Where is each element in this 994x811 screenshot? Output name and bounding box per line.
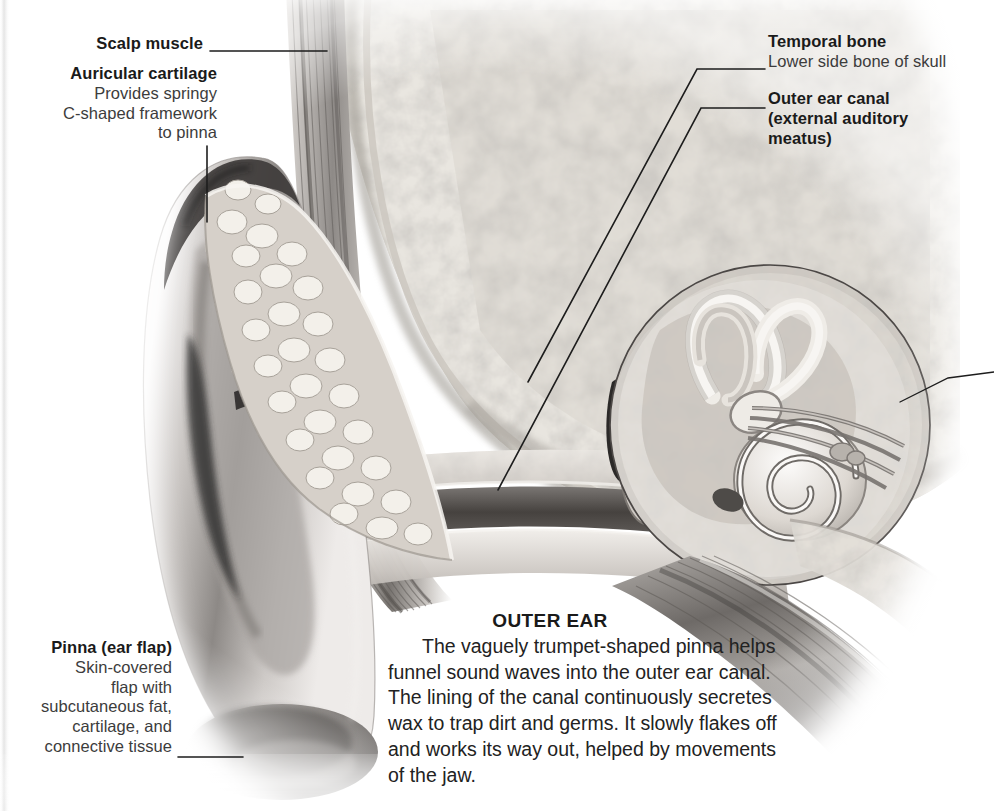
- temporal-bone-subtitle: Lower side bone of skull: [768, 52, 994, 72]
- caption-body: The vaguely trumpet-shaped pinna helps f…: [388, 634, 780, 788]
- label-auricular-cartilage: Auricular cartilage Provides springy C-s…: [0, 64, 217, 143]
- outer-ear-canal-line-1: Outer ear canal: [768, 89, 994, 109]
- label-temporal-bone: Temporal bone Lower side bone of skull: [768, 32, 994, 72]
- label-pinna: Pinna (ear flap) Skin-covered flap with …: [0, 638, 172, 757]
- pinna-line-3: subcutaneous fat,: [0, 697, 172, 717]
- label-outer-ear-canal: Outer ear canal (external auditory meatu…: [768, 89, 994, 148]
- caption-title: OUTER EAR: [388, 610, 780, 632]
- pinna-line-2: flap with: [0, 678, 172, 698]
- figure-page: Scalp muscle Auricular cartilage Provide…: [0, 0, 994, 811]
- outer-ear-canal-line-3: meatus): [768, 129, 994, 149]
- auricular-cartilage-line-3: to pinna: [0, 123, 217, 143]
- scalp-muscle-heading: Scalp muscle: [0, 34, 203, 54]
- outer-ear-canal-line-2: (external auditory: [768, 109, 994, 129]
- auricular-cartilage-line-2: C-shaped framework: [0, 104, 217, 124]
- outer-ear-caption: OUTER EAR The vaguely trumpet-shaped pin…: [388, 610, 780, 788]
- temporal-bone-heading: Temporal bone: [768, 32, 994, 52]
- pinna-line-1: Skin-covered: [0, 658, 172, 678]
- auricular-cartilage-line-1: Provides springy: [0, 84, 217, 104]
- pinna-heading: Pinna (ear flap): [0, 638, 172, 658]
- pinna-line-5: connective tissue: [0, 737, 172, 757]
- auricular-cartilage-heading: Auricular cartilage: [0, 64, 217, 84]
- label-scalp-muscle: Scalp muscle: [0, 34, 203, 54]
- pinna-line-4: cartilage, and: [0, 717, 172, 737]
